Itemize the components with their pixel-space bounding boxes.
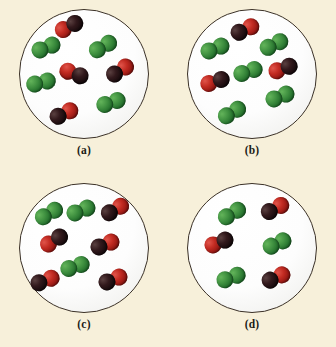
molecule-black-red xyxy=(198,68,232,93)
molecule-black-red xyxy=(266,55,300,81)
molecule-black-red xyxy=(98,195,132,225)
panel-d: (d) xyxy=(168,174,336,347)
molecular-diagram-figure: (a) (b) (c) (d) xyxy=(0,0,336,347)
molecule-black-red xyxy=(37,225,71,255)
molecule-green-green xyxy=(215,97,249,127)
molecule-green-green xyxy=(263,82,297,109)
molecule-group-c xyxy=(19,183,149,313)
molecule-black-red xyxy=(96,266,130,293)
panel-label-d: (d) xyxy=(245,318,260,330)
molecule-green-green xyxy=(260,230,294,258)
molecule-black-red xyxy=(258,194,292,223)
panel-b: (b) xyxy=(168,0,336,174)
molecule-group-d xyxy=(187,183,317,313)
panel-c: (c) xyxy=(0,174,168,347)
panel-label-a: (a) xyxy=(77,144,91,156)
molecule-green-green xyxy=(231,58,265,83)
molecule-black-red xyxy=(259,264,293,292)
molecule-green-green xyxy=(94,89,128,114)
molecule-black-red xyxy=(228,15,262,43)
molecule-green-green xyxy=(24,70,57,94)
molecule-black-red xyxy=(47,99,81,127)
panel-a: (a) xyxy=(0,0,168,174)
molecule-green-green xyxy=(64,197,98,224)
molecule-green-green xyxy=(215,199,249,229)
molecule-green-green xyxy=(214,264,248,290)
vessel-wrap-c xyxy=(19,183,149,313)
molecule-black-red xyxy=(202,229,236,256)
panel-label-c: (c) xyxy=(77,318,90,330)
molecule-green-green xyxy=(32,199,66,229)
molecule-green-green xyxy=(198,34,232,61)
molecule-black-red xyxy=(57,60,91,86)
molecule-black-red xyxy=(103,55,137,85)
vessel-wrap-a xyxy=(19,9,149,139)
vessel-wrap-d xyxy=(187,183,317,313)
molecule-green-green xyxy=(29,33,63,60)
molecule-black-red xyxy=(88,231,122,258)
molecule-green-green xyxy=(86,31,120,61)
molecule-green-green xyxy=(58,254,92,279)
panel-label-b: (b) xyxy=(245,144,260,156)
molecule-black-red xyxy=(28,267,62,293)
molecule-group-a xyxy=(19,9,149,139)
molecule-green-green xyxy=(257,30,291,58)
vessel-wrap-b xyxy=(187,9,317,139)
molecule-group-b xyxy=(187,9,317,139)
